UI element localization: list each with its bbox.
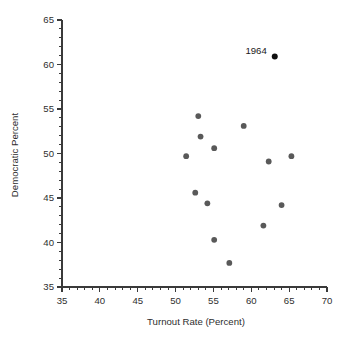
scatter-point [226, 260, 232, 266]
y-tick-label: 35 [43, 281, 54, 292]
scatter-point [279, 202, 285, 208]
scatter-point [204, 200, 210, 206]
y-tick-label: 50 [43, 148, 54, 159]
y-tick-label: 65 [43, 14, 54, 25]
x-axis-title: Turnout Rate (Percent) [147, 316, 245, 327]
scatter-point [198, 134, 204, 140]
scatter-point [266, 159, 272, 165]
scatter-point [272, 53, 278, 59]
scatter-point [195, 113, 201, 119]
data-points [183, 53, 294, 265]
x-tick-label: 70 [322, 295, 333, 306]
scatter-point [192, 190, 198, 196]
x-tick-label: 55 [208, 295, 219, 306]
x-tick-label: 45 [132, 295, 143, 306]
x-tick-label: 35 [57, 295, 68, 306]
x-tick-label: 65 [284, 295, 295, 306]
y-tick-label: 40 [43, 237, 54, 248]
x-tick-label: 50 [170, 295, 181, 306]
scatter-plot-figure: 354045505560653540455055606570 1964 Turn… [0, 0, 351, 338]
scatter-point [241, 123, 247, 129]
plot-canvas: 354045505560653540455055606570 1964 Turn… [0, 0, 351, 338]
scatter-point [261, 223, 267, 229]
tick-marks [57, 20, 327, 292]
y-tick-label: 60 [43, 59, 54, 70]
scatter-point [183, 153, 189, 159]
scatter-point [289, 153, 295, 159]
y-tick-label: 45 [43, 192, 54, 203]
x-tick-label: 40 [95, 295, 106, 306]
x-tick-label: 60 [246, 295, 257, 306]
y-axis-title: Democratic Percent [9, 113, 20, 198]
point-annotations: 1964 [245, 45, 267, 56]
axes [62, 20, 327, 287]
tick-labels: 354045505560653540455055606570 [43, 14, 332, 306]
scatter-point [211, 145, 217, 151]
y-tick-label: 55 [43, 103, 54, 114]
scatter-point [211, 237, 217, 243]
point-annotation-label: 1964 [245, 45, 267, 56]
